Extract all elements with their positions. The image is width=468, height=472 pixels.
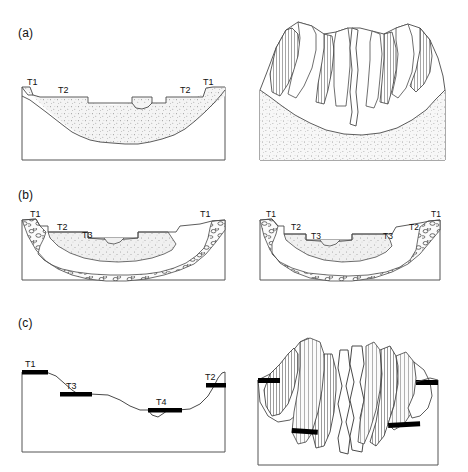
terrace-bar-t1 (22, 370, 48, 375)
label-t2-c: T2 (205, 372, 216, 382)
terrace-evolution-figure: (a) T (0, 0, 468, 472)
label-t2-right-b2: T2 (409, 222, 419, 232)
label-t1-left-a: T1 (27, 77, 38, 87)
label-t1-left-b: T1 (30, 209, 41, 219)
label-t3-left-b: T3 (82, 230, 93, 240)
label-t2-left-a: T2 (58, 85, 69, 95)
label-t1-right-a: T1 (203, 77, 214, 87)
label-t3-c: T3 (66, 381, 77, 391)
label-t1-right-b: T1 (200, 209, 211, 219)
block-diagram-b: T1 T2 T3 T3 T2 T1 (240, 180, 468, 320)
valley-cross-section-a: T1 T2 T2 T1 (0, 0, 240, 180)
panel-b: (b) (0, 180, 468, 320)
label-t1-right-b2: T1 (431, 209, 441, 219)
terrace-bar-t3 (60, 392, 92, 397)
label-t3-right-b2: T3 (383, 231, 393, 241)
label-t4-c: T4 (156, 397, 167, 407)
valley-cross-section-c: T1 T3 T4 T2 (0, 320, 240, 472)
panel-c: (c) T1 T3 T4 T2 (0, 320, 468, 472)
terrace-bar-t2 (206, 383, 226, 388)
block-diagram-a (240, 0, 468, 180)
label-t2-right-a: T2 (180, 85, 191, 95)
block-diagram-c (240, 320, 468, 472)
label-t3-left-b2: T3 (311, 231, 321, 241)
label-t1-left-b2: T1 (266, 209, 276, 219)
valley-cross-section-b: T1 T2 T3 T1 (0, 180, 240, 320)
label-t1-c: T1 (25, 359, 36, 369)
label-t2-left-b2: T2 (291, 222, 301, 232)
panel-a: (a) T (0, 0, 468, 180)
terrace-bar-t4 (148, 408, 182, 413)
label-t2-left-b: T2 (57, 222, 68, 232)
